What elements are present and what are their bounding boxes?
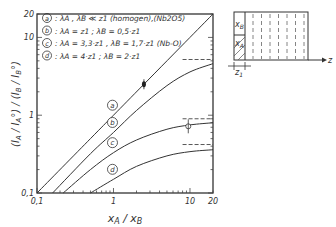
svg-text:: λA = 3,3·z1 , λB = 1,7·z1 (N: : λA = 3,3·z1 , λB = 1,7·z1 (Nb-O): [55, 39, 182, 48]
svg-text:d: d: [110, 166, 115, 174]
svg-text:1: 1: [29, 111, 34, 120]
log-log-chart: 0,1110200,111020 abcd a: λA , λB ≪ z1 (h…: [0, 0, 336, 227]
svg-text:1: 1: [111, 197, 116, 206]
svg-text:10: 10: [185, 197, 195, 206]
svg-text:c: c: [45, 40, 49, 48]
asymptote-dashes: [183, 60, 213, 145]
legend: a: λA , λB ≪ z1 (homogen),(Nb2O5)b: λA =…: [43, 14, 186, 61]
svg-text:b: b: [110, 119, 115, 127]
svg-text:: λA , λB ≪ z1 (homogen),(Nb2: : λA , λB ≪ z1 (homogen),(Nb2O5): [55, 14, 185, 23]
x-axis-title: xA / xB: [107, 212, 143, 226]
svg-text:xA: xA: [234, 39, 244, 49]
svg-text:z: z: [327, 56, 333, 65]
svg-text:b: b: [45, 27, 49, 35]
data-points: [142, 79, 191, 133]
svg-text:: λA = 4·z1 ; λB = 2·z1: : λA = 4·z1 ; λB = 2·z1: [55, 52, 140, 61]
svg-text:xB: xB: [234, 20, 244, 30]
svg-text:0,1: 0,1: [31, 197, 44, 206]
layer-inset-diagram: xB xA z z1: [228, 12, 333, 78]
svg-text:20: 20: [208, 197, 218, 206]
svg-text:0,1: 0,1: [21, 189, 34, 198]
svg-text:a: a: [45, 15, 49, 23]
svg-text:: λA = z1 ; λB = 0,5·z1: : λA = z1 ; λB = 0,5·z1: [55, 27, 140, 36]
svg-text:10: 10: [24, 33, 34, 42]
svg-text:z1: z1: [234, 68, 243, 78]
svg-text:20: 20: [24, 10, 34, 19]
svg-text:a: a: [110, 102, 114, 110]
y-axis-title: (IA / IA°) / (IB / IB°): [10, 61, 23, 147]
svg-text:c: c: [111, 139, 115, 147]
svg-text:d: d: [45, 52, 50, 60]
